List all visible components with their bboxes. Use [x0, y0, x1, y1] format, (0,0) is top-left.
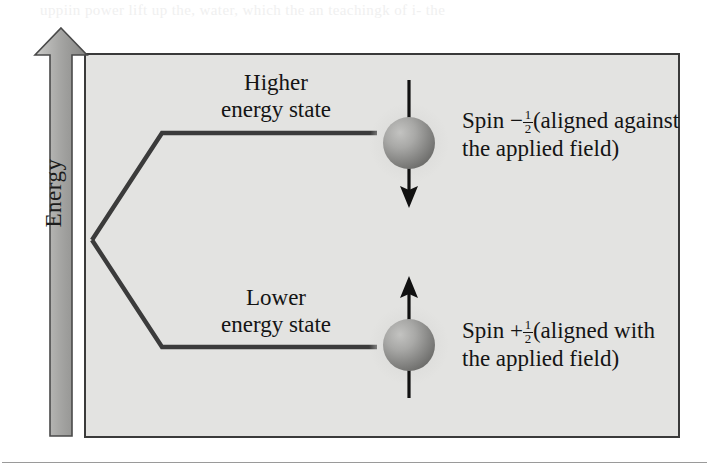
one-half-fraction: 12: [523, 109, 533, 136]
spin-sign: +: [510, 318, 523, 343]
higher-energy-nucleus-group: [369, 80, 449, 208]
spin-energy-diagram: Energy: [0, 0, 709, 472]
one-half-fraction: 12: [523, 319, 533, 346]
page-bottom-rule: [2, 462, 707, 463]
lower-energy-nucleus-group: [369, 276, 449, 398]
lower-energy-state-label: Lower energy state: [176, 285, 376, 338]
sphere-icon: [383, 319, 435, 371]
sphere-icon: [383, 117, 435, 169]
higher-energy-state-label: Higher energy state: [176, 70, 376, 123]
spin-word: Spin: [462, 318, 510, 343]
higher-energy-spin-label: Spin −12(aligned against the applied fie…: [462, 108, 692, 163]
spin-word: Spin: [462, 108, 510, 133]
spin-sign: −: [510, 108, 523, 133]
higher-energy-level-line: [92, 133, 377, 240]
lower-energy-spin-label: Spin +12(aligned with the applied field): [462, 318, 692, 373]
